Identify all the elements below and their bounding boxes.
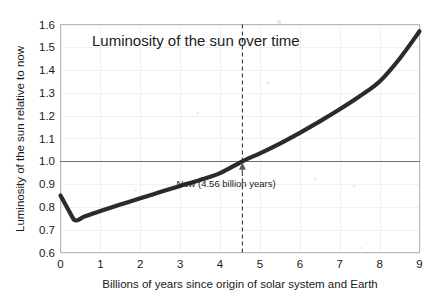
y-tick-label: 1.2 bbox=[39, 110, 55, 122]
x-tick-label: 2 bbox=[137, 258, 143, 270]
y-tick-label: 0.7 bbox=[39, 224, 55, 236]
y-axis-title: Luminosity of the sun relative to now bbox=[14, 45, 26, 232]
y-tick-label: 1.3 bbox=[39, 87, 55, 99]
y-tick-label: 1.5 bbox=[39, 41, 55, 53]
luminosity-chart: Luminosity of the sun over time Now (4.5… bbox=[0, 0, 434, 304]
x-tick-label: 9 bbox=[416, 258, 422, 270]
x-axis-title: Billions of years since origin of solar … bbox=[102, 278, 377, 290]
y-tick-label: 1.0 bbox=[39, 155, 55, 167]
y-tick-label: 0.8 bbox=[39, 201, 55, 213]
x-tick-label: 1 bbox=[97, 258, 103, 270]
x-tick-label: 6 bbox=[297, 258, 303, 270]
x-tick-label: 5 bbox=[257, 258, 263, 270]
x-tick-label: 7 bbox=[337, 258, 343, 270]
now-annotation-label: Now (4.56 billion years) bbox=[176, 178, 275, 189]
x-tick-label: 8 bbox=[376, 258, 382, 270]
y-tick-label: 1.6 bbox=[39, 19, 55, 31]
x-tick-label: 3 bbox=[177, 258, 183, 270]
y-tick-label: 0.6 bbox=[39, 247, 55, 259]
x-tick-label: 4 bbox=[217, 258, 224, 270]
x-tick-label: 0 bbox=[57, 258, 63, 270]
chart-canvas: Luminosity of the sun over time Now (4.5… bbox=[0, 0, 434, 304]
y-tick-label: 1.4 bbox=[39, 64, 56, 76]
y-tick-label: 0.9 bbox=[39, 178, 55, 190]
chart-title: Luminosity of the sun over time bbox=[92, 32, 300, 49]
y-tick-label: 1.1 bbox=[39, 133, 55, 145]
